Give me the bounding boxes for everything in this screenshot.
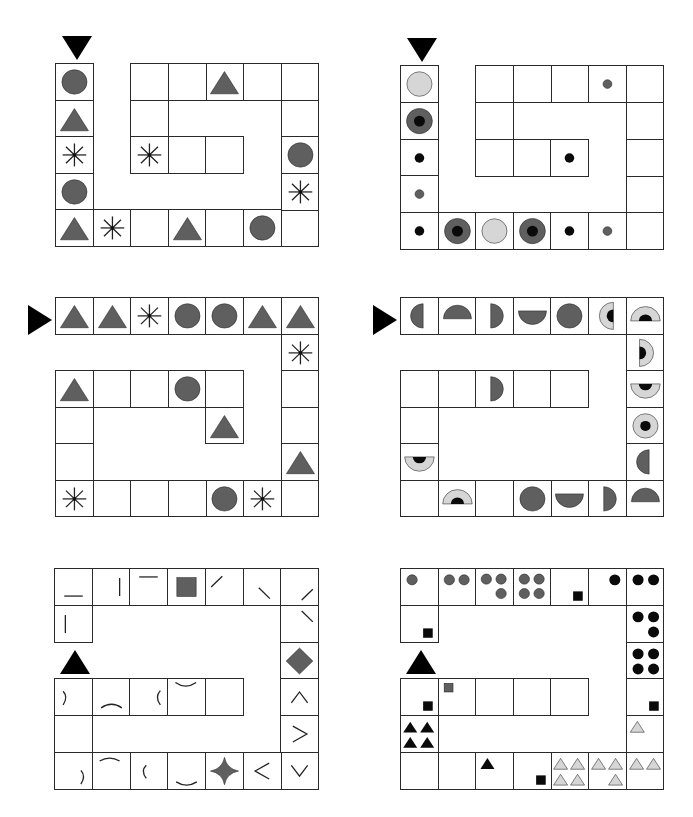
board-cell-diamond xyxy=(280,642,319,680)
board-cell-dot-black xyxy=(400,139,439,177)
triangle-icon xyxy=(282,298,319,334)
halfring-down-icon xyxy=(627,371,664,407)
board-cell-asterisk xyxy=(281,173,320,211)
asterisk-icon xyxy=(131,137,168,173)
start-arrow-up-icon xyxy=(406,650,436,674)
line-slash-tl-icon xyxy=(206,569,243,605)
board-cell-sq-br xyxy=(550,568,589,606)
board-cell-empty xyxy=(281,100,320,138)
asterisk-icon xyxy=(282,174,319,210)
asterisk-icon xyxy=(244,481,281,517)
board-cell-asterisk xyxy=(55,136,94,174)
board-cell-empty xyxy=(475,102,514,140)
board-cell-dot-gray xyxy=(588,212,627,250)
board-cell-sq-br xyxy=(626,678,665,716)
line-back-tr-icon xyxy=(281,606,318,642)
board-cell-empty xyxy=(55,407,94,445)
board-cell-bt4 xyxy=(400,715,439,753)
board-cell-triangle xyxy=(93,297,132,335)
board-cell-line-back-tr xyxy=(280,605,319,643)
board-cell-lt2 xyxy=(626,752,665,790)
board-cell-empty xyxy=(281,209,320,247)
triangle-icon xyxy=(206,408,243,444)
board-cell-line-h-top xyxy=(129,568,168,606)
board-cell-asterisk xyxy=(130,297,169,335)
board-cell-empty xyxy=(205,209,244,247)
board-cell-asterisk xyxy=(93,209,132,247)
dot-gray-icon xyxy=(589,66,626,102)
board-cell-empty xyxy=(513,65,552,103)
board-cell-circle xyxy=(205,480,244,518)
arc-paren-right-r-icon xyxy=(55,753,92,789)
sq-br-icon xyxy=(627,679,664,715)
chev-left-icon xyxy=(244,753,281,789)
ring-dark-icon xyxy=(401,103,438,139)
circle-light-icon xyxy=(401,66,438,102)
circle-icon xyxy=(206,481,243,517)
triangle-icon xyxy=(56,101,93,137)
b1-icon xyxy=(589,569,626,605)
ring-dark-icon xyxy=(514,213,551,249)
half-down-icon xyxy=(514,298,551,334)
dot-gray-icon xyxy=(589,213,626,249)
board-cell-empty xyxy=(626,65,665,103)
board-cell-empty xyxy=(400,407,439,445)
board-cell-empty xyxy=(54,715,93,753)
board-cell-halfring-left xyxy=(588,297,627,335)
triangle-icon xyxy=(56,298,93,334)
board-cell-triangle xyxy=(205,407,244,445)
board-cell-asterisk xyxy=(130,136,169,174)
board-cell-empty xyxy=(130,480,169,518)
board-cell-b2 xyxy=(626,568,665,606)
board-cell-line-slash-tl xyxy=(205,568,244,606)
board-cell-empty xyxy=(205,136,244,174)
line-h-bottom-icon xyxy=(55,569,92,605)
board-cell-chev-up xyxy=(280,678,319,716)
board-cell-empty xyxy=(168,63,207,101)
halfring-down-icon xyxy=(401,444,438,480)
board-cell-circle xyxy=(168,370,207,408)
halfring-right-icon xyxy=(627,335,664,371)
line-slash-br-icon xyxy=(281,569,318,605)
board-cell-empty xyxy=(400,480,439,518)
board-cell-empty xyxy=(475,480,514,518)
dot-black-icon xyxy=(401,213,438,249)
board-cell-half-right xyxy=(475,297,514,335)
board-cell-circle xyxy=(243,209,282,247)
half-left-icon xyxy=(401,298,438,334)
board-cell-empty xyxy=(55,443,94,481)
board-cell-circle xyxy=(205,297,244,335)
circle-light-icon xyxy=(476,213,513,249)
circle-icon xyxy=(169,298,206,334)
board-cell-halfring-up xyxy=(626,297,665,335)
board-cell-triangle xyxy=(281,443,320,481)
board-cell-halfring-up xyxy=(438,480,477,518)
board-cell-dot-gray xyxy=(400,175,439,213)
board-cell-empty xyxy=(550,678,589,716)
board-cell-circle xyxy=(513,480,552,518)
board-cell-b3 xyxy=(626,605,665,643)
board-cell-circle xyxy=(168,297,207,335)
board-cell-empty xyxy=(130,63,169,101)
board-cell-triangle xyxy=(205,63,244,101)
board-cell-line-v-right xyxy=(92,568,131,606)
arc-frown-bottom-icon xyxy=(93,679,130,715)
board-cell-arc-paren-right-r xyxy=(54,752,93,790)
board-cell-empty xyxy=(243,63,282,101)
b2-icon xyxy=(627,569,664,605)
chev-right-icon xyxy=(281,716,318,752)
asterisk-icon xyxy=(56,481,93,517)
board-cell-ring-light xyxy=(626,407,665,445)
start-arrow-right-icon xyxy=(373,305,397,335)
board-cell-half-left xyxy=(400,297,439,335)
board-cell-empty xyxy=(205,678,244,716)
board-cell-empty xyxy=(475,65,514,103)
board-cell-arc-smile-bottom xyxy=(167,752,206,790)
circle-icon xyxy=(206,298,243,334)
asterisk-icon xyxy=(94,210,131,246)
board-cell-line-v-left xyxy=(54,605,93,643)
board-cell-circle-light xyxy=(475,212,514,250)
board-cell-ring-dark xyxy=(438,212,477,250)
half-down-icon xyxy=(551,481,588,517)
chev-down-icon xyxy=(281,753,318,789)
